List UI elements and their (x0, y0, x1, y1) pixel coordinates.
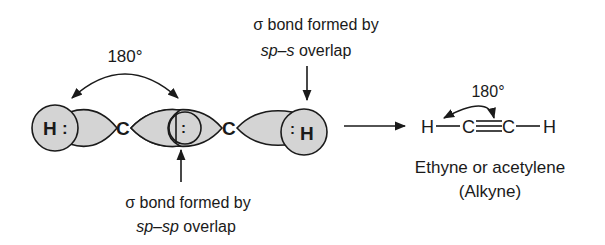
product-name: Ethyne or acetylene (415, 158, 565, 177)
lone-dots-center: : (181, 119, 186, 136)
sp-s-annotation-line2: sp–s overlap (261, 42, 352, 59)
lone-dots-left: : (62, 119, 68, 138)
sp-sp-annotation-line2: sp–sp overlap (136, 218, 236, 235)
sp-sp-overlap-word: overlap (179, 218, 236, 235)
product-angle-label: 180° (471, 83, 504, 100)
atom-c2: C (222, 118, 236, 139)
sp-s-annotation-line1: σ bond formed by (253, 16, 379, 33)
ethyne-sp-hybridization-diagram: 180° H : C : C : H σ bond formed by sp–s… (0, 0, 605, 245)
formula-c1: C (462, 117, 475, 137)
atom-h-right: H (300, 123, 314, 144)
atom-c1: C (116, 118, 130, 139)
formula-h2: H (543, 117, 556, 137)
formula-c2: C (502, 117, 515, 137)
sp-sp-term: sp–sp (136, 218, 179, 235)
lone-dots-right: : (290, 120, 295, 137)
center-sp-sp-orbitals (131, 110, 222, 147)
atom-h-left: H (43, 118, 57, 139)
formula-h1: H (421, 117, 434, 137)
sp-s-overlap-word: overlap (294, 42, 351, 59)
product-class: (Alkyne) (459, 182, 521, 201)
left-angle-label: 180° (107, 47, 142, 66)
left-angle-arrow-icon (72, 74, 178, 98)
sp-s-term: sp–s (261, 42, 295, 59)
sp-sp-annotation-line1: σ bond formed by (125, 194, 251, 211)
triple-bond-icon (476, 121, 502, 131)
